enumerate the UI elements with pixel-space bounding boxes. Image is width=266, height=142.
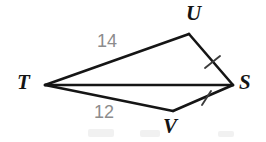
- scan-artifact: [140, 130, 160, 137]
- segment-US: [189, 34, 233, 85]
- side-measure-TV: 12: [94, 103, 114, 121]
- segment-VS: [173, 85, 233, 111]
- scan-artifact: [88, 129, 114, 137]
- figure-canvas: [0, 0, 266, 142]
- vertex-label-S: S: [239, 72, 251, 93]
- vertex-label-T: T: [17, 72, 30, 93]
- vertex-label-V: V: [163, 116, 177, 137]
- vertex-label-U: U: [186, 3, 201, 24]
- scan-artifact: [218, 131, 234, 137]
- side-measure-TU: 14: [97, 32, 117, 50]
- geometry-figure: T U S V 14 12: [0, 0, 266, 142]
